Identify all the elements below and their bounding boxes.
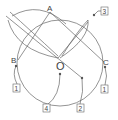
point-marker-1-left (15, 65, 17, 67)
point-label-a: A (47, 4, 53, 13)
svg-text:2: 2 (79, 105, 83, 112)
svg-text:1: 1 (103, 86, 107, 93)
callout-2: 2 (77, 104, 84, 112)
point-marker-4 (59, 73, 61, 75)
point-label-o: O (56, 60, 65, 72)
callout-3: 3 (101, 7, 108, 15)
callout-1-left: 1 (13, 84, 20, 92)
circumcircle-diagram: A B C O 1 1 2 3 4 (0, 0, 118, 120)
leader-4 (47, 74, 60, 105)
line-ab (18, 12, 50, 60)
leader-1-left (14, 66, 17, 84)
construction-arc-top (12, 10, 66, 24)
construction-arc-left-upper (10, 12, 58, 56)
svg-text:4: 4 (45, 105, 49, 112)
point-marker-2 (81, 77, 83, 79)
svg-text:1: 1 (15, 85, 19, 92)
leader-3 (94, 11, 101, 15)
point-label-c: C (103, 58, 109, 67)
callout-1-right: 1 (101, 85, 108, 93)
bisector-line-ac (50, 12, 104, 62)
point-label-b: B (11, 56, 16, 65)
svg-text:3: 3 (103, 8, 107, 15)
callout-4: 4 (43, 104, 50, 112)
leader-1-right (105, 67, 107, 85)
point-marker-3 (93, 14, 95, 16)
bisector-line-bc (58, 22, 88, 58)
